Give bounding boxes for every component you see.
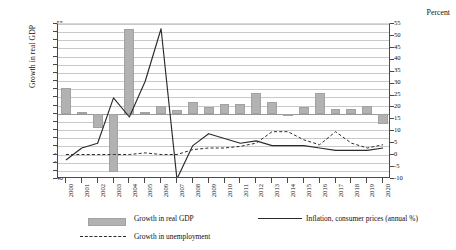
line-unemployment xyxy=(66,132,383,155)
y-axis-right-tick xyxy=(390,83,394,84)
y-axis-right-tick xyxy=(390,166,394,167)
x-axis-tick xyxy=(335,178,336,183)
x-axis-tick xyxy=(287,178,288,183)
x-axis-tick xyxy=(255,178,256,183)
line-series-layer xyxy=(58,24,390,178)
legend-label-1: Growth in real GDP xyxy=(134,214,194,223)
legend-swatch-solid-line xyxy=(258,218,302,219)
y-axis-right-tick xyxy=(390,130,394,131)
y-axis-right-tick-label: 15 xyxy=(394,115,418,122)
y-axis-right-tick-label: 30 xyxy=(394,79,418,86)
y-axis-right-tick-label: 40 xyxy=(394,55,418,62)
y-axis-right-tick xyxy=(390,23,394,24)
y-axis-right-tick xyxy=(390,178,394,179)
x-axis-label-2007: 2007 xyxy=(179,184,186,197)
y-axis-right-tick xyxy=(390,71,394,72)
x-axis-tick xyxy=(350,178,351,183)
legend-swatch-dashed-line xyxy=(80,236,126,237)
x-axis-tick xyxy=(366,178,367,183)
x-axis-label-2000: 2000 xyxy=(68,184,75,197)
y-axis-right-tick-label: 45 xyxy=(394,44,418,51)
x-axis-tick xyxy=(239,178,240,183)
y-axis-right-tick xyxy=(390,95,394,96)
y-axis-right-tick-label: 35 xyxy=(394,67,418,74)
y-axis-right-tick-label: 25 xyxy=(394,91,418,98)
x-axis-label-2015: 2015 xyxy=(306,184,313,197)
y-axis-right-title: Percent xyxy=(427,8,450,17)
x-axis-tick xyxy=(319,178,320,183)
x-axis-label-2009: 2009 xyxy=(211,184,218,197)
y-axis-left-title: Growth in real GDP xyxy=(28,0,37,117)
x-axis-label-2019: 2019 xyxy=(369,184,376,197)
legend-label-3: Inflation, consumer prices (annual %) xyxy=(306,214,418,223)
y-axis-right-tick-label: 55 xyxy=(394,20,418,27)
y-axis-right-tick xyxy=(390,154,394,155)
x-axis-label-2002: 2002 xyxy=(100,184,107,197)
x-axis-tick xyxy=(81,178,82,183)
x-axis-label-2016: 2016 xyxy=(322,184,329,197)
x-axis-label-2010: 2010 xyxy=(227,184,234,197)
x-axis-tick xyxy=(97,178,98,183)
x-axis-label-2005: 2005 xyxy=(147,184,154,197)
y-axis-right-tick xyxy=(390,59,394,60)
x-axis-tick xyxy=(176,178,177,183)
x-axis-label-2008: 2008 xyxy=(195,184,202,197)
legend-swatch-bar xyxy=(88,218,126,226)
x-axis-label-2014: 2014 xyxy=(290,184,297,197)
legend-label-2: Growth in unemployment xyxy=(134,232,210,241)
x-axis-label-2001: 2001 xyxy=(84,184,91,197)
x-axis-tick xyxy=(113,178,114,183)
x-axis-tick xyxy=(303,178,304,183)
y-axis-left-tick xyxy=(53,178,57,179)
y-axis-right-tick xyxy=(390,118,394,119)
x-axis-tick xyxy=(128,178,129,183)
x-axis-tick xyxy=(160,178,161,183)
y-axis-right-tick-label: 0 xyxy=(394,151,418,158)
x-axis-label-2012: 2012 xyxy=(258,184,265,197)
y-axis-right-tick-label: -10 xyxy=(394,175,418,182)
y-axis-right-tick xyxy=(390,35,394,36)
y-axis-right-tick-label: 50 xyxy=(394,32,418,39)
x-axis-tick xyxy=(382,178,383,183)
x-axis-tick xyxy=(144,178,145,183)
y-axis-right-tick-label: 5 xyxy=(394,139,418,146)
x-axis-label-2013: 2013 xyxy=(274,184,281,197)
y-axis-right-tick xyxy=(390,142,394,143)
x-axis-label-2011: 2011 xyxy=(243,184,250,197)
x-axis-label-2004: 2004 xyxy=(132,184,139,197)
line-inflation xyxy=(66,29,383,178)
chart-figure: Growth in real GDP Percent 5550454035302… xyxy=(0,0,456,250)
y-axis-right-tick-label: 10 xyxy=(394,127,418,134)
x-axis-label-2006: 2006 xyxy=(163,184,170,197)
y-axis-right-tick-label: 20 xyxy=(394,103,418,110)
x-axis-tick xyxy=(271,178,272,183)
x-axis-tick xyxy=(224,178,225,183)
chart-legend: Growth in real GDPGrowth in unemployment… xyxy=(0,205,456,250)
x-axis-label-2020: 2020 xyxy=(385,184,392,197)
x-axis-label-2003: 2003 xyxy=(116,184,123,197)
x-axis-tick xyxy=(65,178,66,183)
x-axis-tick xyxy=(208,178,209,183)
y-axis-right-tick-label: -5 xyxy=(394,163,418,170)
plot-area xyxy=(57,23,390,178)
x-axis-label-2018: 2018 xyxy=(354,184,361,197)
y-axis-right-tick xyxy=(390,47,394,48)
x-axis-label-2017: 2017 xyxy=(338,184,345,197)
x-axis-tick xyxy=(192,178,193,183)
y-axis-right-tick xyxy=(390,106,394,107)
